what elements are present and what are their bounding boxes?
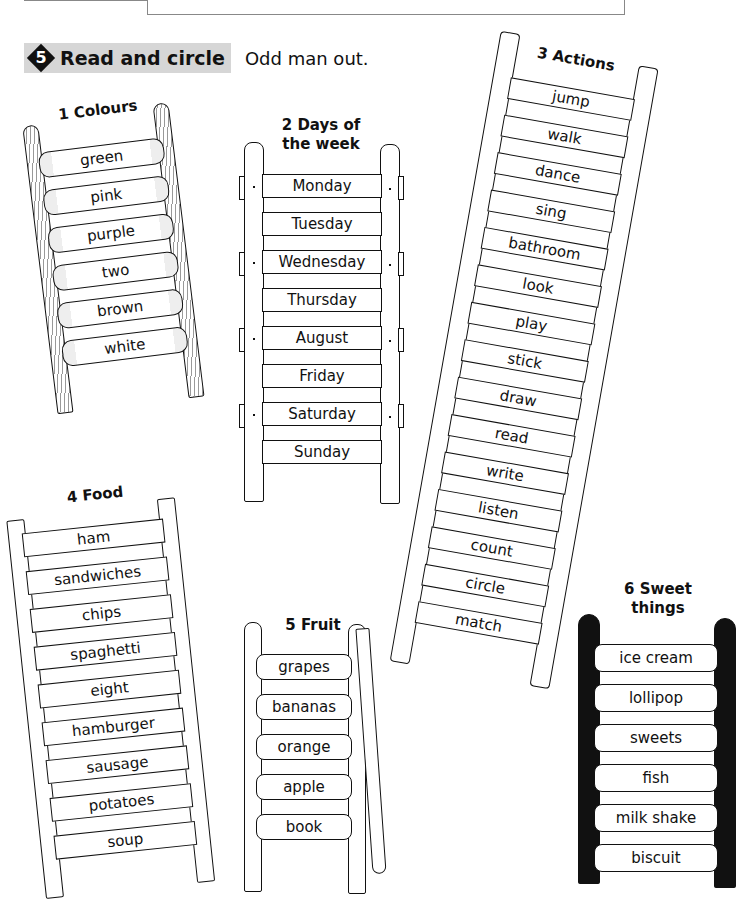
word-rung[interactable]: pink [42,175,170,216]
rail-peg [239,328,245,352]
rail-dot [253,262,255,264]
word-rung[interactable]: purple [47,213,175,254]
word-rung[interactable]: lollipop [594,684,718,712]
word-rung[interactable]: sandwiches [26,556,170,595]
word-rung[interactable]: ice cream [594,644,718,672]
word-rung[interactable]: spaghetti [34,632,178,671]
ladder-title-line1: 2 Days of [264,116,378,135]
ladder-sweets: 6 Sweet things ice cream lollipop sweets… [578,580,738,880]
rail-peg [398,328,404,352]
word-rung[interactable]: green [38,137,166,178]
exercise-header: 5 Read and circle Odd man out. [24,42,369,74]
top-box-left [24,0,156,1]
word-rung[interactable]: walk [500,115,628,159]
ladder-title: 4 Food [39,480,150,510]
ladder-title: 1 Colours [42,94,153,126]
ladder-title-line2: things [608,599,708,618]
word-rung[interactable]: play [467,302,595,346]
word-rung[interactable]: sweets [594,724,718,752]
rail-peg [239,404,245,428]
word-rung[interactable]: draw [454,377,582,421]
word-rung[interactable]: write [441,451,569,495]
word-rung[interactable]: Tuesday [262,212,382,236]
word-rung[interactable]: sausage [46,745,190,784]
word-rung[interactable]: August [262,326,382,350]
ladder-fruit: 5 Fruit grapes bananas orange apple book [244,608,384,888]
word-rung[interactable]: count [428,526,556,570]
word-rung[interactable]: eight [38,670,182,709]
word-rung[interactable]: Saturday [262,402,382,426]
ladder-food: 4 Food ham sandwiches chips spaghetti ei… [0,475,240,894]
word-rung[interactable]: ham [22,519,166,558]
ladder-title: 2 Days of the week [264,116,378,154]
diamond-number-icon: 5 [28,45,54,71]
ladder-colours: 1 Colours green pink purple two brown wh… [12,91,217,409]
rail-dot [389,264,391,266]
rail-dot [389,340,391,342]
rail-peg [398,176,404,200]
word-rung[interactable]: two [51,251,179,292]
top-answer-box [147,0,625,15]
word-rung[interactable]: grapes [256,654,352,680]
word-rung[interactable]: fish [594,764,718,792]
ladder-rail-left [244,142,264,502]
word-rung[interactable]: dance [494,152,622,196]
word-rung[interactable]: milk shake [594,804,718,832]
rail-dot [389,416,391,418]
word-rung[interactable]: bananas [256,694,352,720]
word-rung[interactable]: Sunday [262,440,382,464]
word-rung[interactable]: brown [56,288,184,329]
ladder-title-line1: 6 Sweet [608,580,708,599]
word-rung[interactable]: sing [487,190,615,234]
ladder-title: 5 Fruit [268,616,358,635]
word-rung[interactable]: chips [30,594,174,633]
word-rung[interactable]: Monday [262,174,382,198]
word-rung[interactable]: Friday [262,364,382,388]
word-rung[interactable]: read [448,414,576,458]
ladder-days: 2 Days of the week Monday Tuesday Wednes… [236,116,406,506]
exercise-title: Read and circle [60,47,225,69]
ladder-title: 6 Sweet things [608,580,708,618]
exercise-number: 5 [28,45,54,71]
word-rung[interactable]: hamburger [42,708,186,747]
rail-peg [398,404,404,428]
word-rung[interactable]: bathroom [481,227,609,271]
word-rung[interactable]: stick [461,339,589,383]
word-rung[interactable]: orange [256,734,352,760]
word-rung[interactable]: listen [434,489,562,533]
word-rung[interactable]: Thursday [262,288,382,312]
rail-peg [398,252,404,276]
ladder-title-line2: the week [264,135,378,154]
word-rung[interactable]: potatoes [50,783,194,822]
rail-dot [253,338,255,340]
ladder-title: 3 Actions [518,41,634,80]
exercise-badge: 5 Read and circle [24,43,231,73]
exercise-instruction: Odd man out. [245,48,369,69]
rail-dot [389,188,391,190]
rail-peg [239,252,245,276]
word-rung[interactable]: jump [507,77,635,121]
word-rung[interactable]: match [415,601,543,645]
word-rung[interactable]: apple [256,774,352,800]
ladder-rail-right [380,144,400,504]
rail-dot [253,414,255,416]
rail-dot [253,186,255,188]
word-rung[interactable]: biscuit [594,844,718,872]
word-rung[interactable]: soup [54,821,198,860]
word-rung[interactable]: look [474,264,602,308]
rail-peg [239,176,245,200]
word-rung[interactable]: circle [421,564,549,608]
word-rung[interactable]: Wednesday [262,250,382,274]
word-rung[interactable]: book [256,814,352,840]
word-rung[interactable]: white [61,326,189,367]
